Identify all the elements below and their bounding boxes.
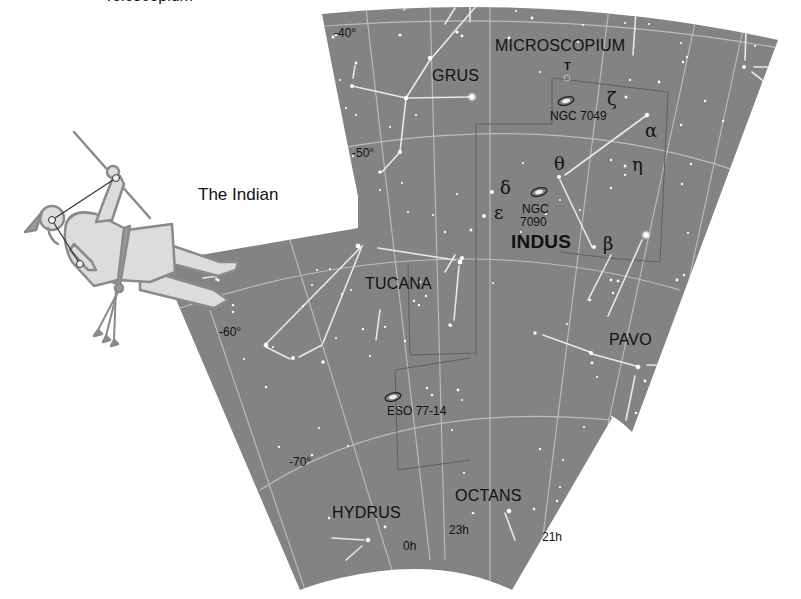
dso-label-eso-77-14: ESO 77-14 <box>387 405 446 417</box>
constellation-label-pavo: PAVO <box>609 332 652 348</box>
ra-label-23h: 23h <box>449 524 469 536</box>
constellation-label-hydrus: HYDRUS <box>332 505 401 521</box>
declination-label-70: -70° <box>289 456 311 468</box>
dso-label-ngc-7090-line1: NGC <box>522 203 549 215</box>
constellation-label-microscopium: MICROSCOPIUM <box>495 38 625 54</box>
declination-label-50: -50° <box>352 147 374 159</box>
star-label-alpha: α <box>645 122 657 140</box>
star-label-theta: θ <box>554 155 565 173</box>
star-label-eta: η <box>632 156 643 174</box>
star-label-epsilon: ε <box>494 204 503 222</box>
star-label-t: T <box>564 61 571 72</box>
declination-label-60: -60° <box>219 326 241 338</box>
constellation-label-grus: GRUS <box>432 68 479 84</box>
declination-label-40: -40° <box>334 27 356 39</box>
star-label-delta: δ <box>500 179 511 197</box>
dso-label-ngc-7049: NGC 7049 <box>550 110 607 122</box>
constellation-label-octans: OCTANS <box>455 488 522 504</box>
ra-label-21h: 21h <box>542 531 562 543</box>
dso-label-ngc-7090-line2: 7090 <box>520 216 547 228</box>
star-label-zeta: ζ <box>607 90 617 108</box>
ra-label-0h: 0h <box>403 540 416 552</box>
constellation-label-indus: INDUS <box>511 232 571 251</box>
constellation-label-tucana: TUCANA <box>365 276 432 292</box>
star-label-beta: β <box>603 235 613 253</box>
figure-label: The Indian <box>198 186 278 203</box>
caption-top-cutoff: Telescopium <box>104 0 193 4</box>
